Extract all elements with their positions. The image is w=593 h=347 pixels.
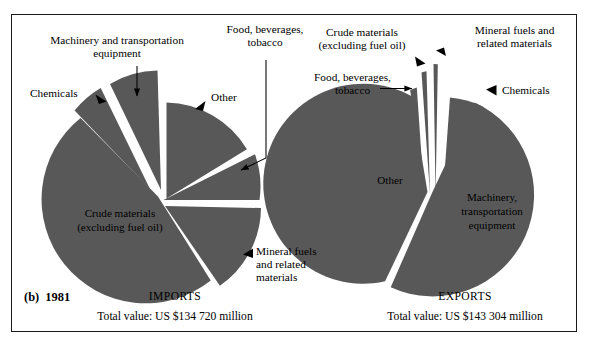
leader-imports-food (241, 60, 266, 170)
exports-total-value: Total value: US $143 304 million (340, 310, 590, 323)
imports-total-value: Total value: US $134 720 million (50, 310, 300, 323)
figure-panel: Machinery and transportation equipment C… (0, 0, 593, 347)
exports-label-mineral: Mineral fuels and related materials (447, 24, 582, 50)
exports-title: EXPORTS (400, 290, 530, 303)
exports-label-crude: Crude materials (excluding fuel oil) (292, 26, 432, 52)
imports-title: IMPORTS (110, 290, 240, 303)
imports-label-chemicals: Chemicals (30, 87, 78, 100)
leader-exports-chemicals (486, 85, 497, 96)
exports-slice-mineral (434, 64, 438, 196)
imports-label-mineral: Mineral fuels and related materials (256, 245, 317, 285)
imports-label-machinery: Machinery and transportation equipment (17, 34, 217, 60)
imports-label-other: Other (211, 91, 237, 104)
leader-exports-mineral (436, 48, 446, 57)
leader-exports-crude (415, 57, 426, 67)
figure-caption-marker: (b) 1981 (24, 290, 70, 305)
imports-pie (42, 71, 261, 304)
exports-label-chemicals: Chemicals (502, 84, 550, 97)
exports-label-food: Food, beverages, tobacco (295, 71, 410, 97)
